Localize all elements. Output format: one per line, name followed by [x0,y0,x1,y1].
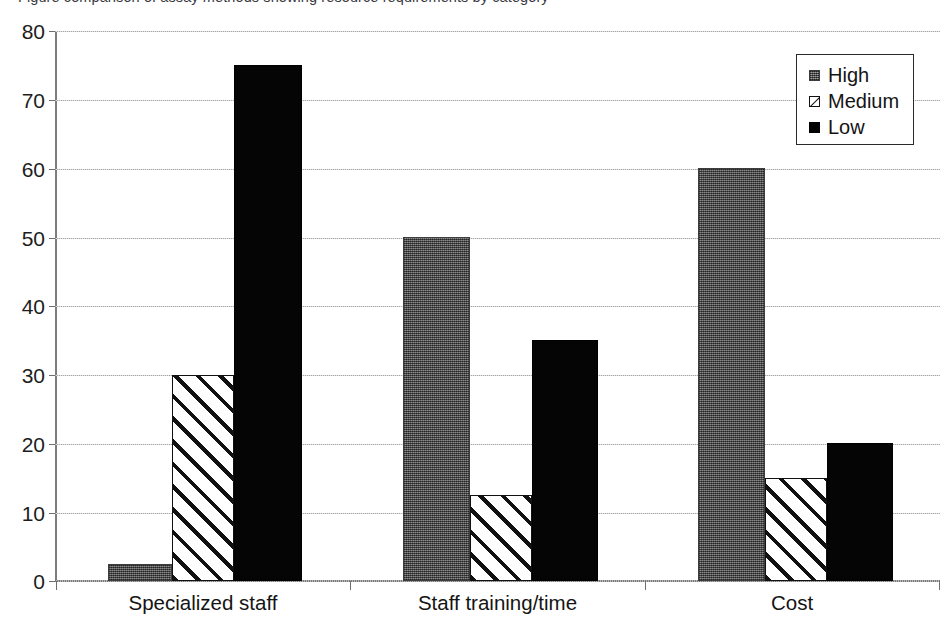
y-axis-tick-label: 50 [0,228,45,249]
bar-low-cost[interactable] [827,443,893,581]
y-axis-tick-label: 20 [0,434,45,455]
y-axis-tick-label: 10 [0,503,45,524]
legend-swatch-high-icon [809,70,820,81]
legend-label-medium: Medium [828,91,899,111]
chart-legend: High Medium Low [796,54,914,145]
legend-label-high: High [828,65,869,85]
gridline-80 [55,31,940,32]
bar-high-specialized-staff[interactable] [108,564,172,581]
y-axis-tick-label: 80 [0,21,45,42]
bar-medium-staff-training-time[interactable] [470,495,532,581]
bar-low-specialized-staff[interactable] [234,65,302,581]
gridline-50 [55,238,940,239]
x-tick-end [939,581,940,590]
bar-high-staff-training-time[interactable] [403,237,470,581]
legend-swatch-medium-icon [809,96,820,107]
legend-swatch-low-icon [809,122,820,133]
x-axis-label-staff-training-time: Staff training/time [350,592,645,615]
y-axis-tick-label: 60 [0,159,45,180]
gridline-60 [55,169,940,170]
x-tick-sep-1 [350,581,351,590]
legend-label-low: Low [828,117,865,137]
bar-chart: 80 70 60 50 40 30 20 10 0 [0,0,949,620]
y-axis-tick-label: 40 [0,296,45,317]
x-axis-label-specialized-staff: Specialized staff [56,592,350,615]
x-tick-sep-2 [645,581,646,590]
bar-low-staff-training-time[interactable] [532,340,598,581]
legend-item-medium[interactable]: Medium [809,88,913,114]
legend-item-low[interactable]: Low [809,114,913,140]
bar-high-cost[interactable] [698,168,765,581]
bar-medium-cost[interactable] [765,478,827,581]
y-axis-tick-label: 30 [0,365,45,386]
bar-medium-specialized-staff[interactable] [172,375,234,581]
legend-item-high[interactable]: High [809,62,913,88]
y-axis-tick-label: 0 [0,571,45,592]
x-tick-start [56,581,57,590]
gridline-40 [55,306,940,307]
y-axis-tick-label: 70 [0,90,45,111]
x-axis-label-cost: Cost [645,592,939,615]
